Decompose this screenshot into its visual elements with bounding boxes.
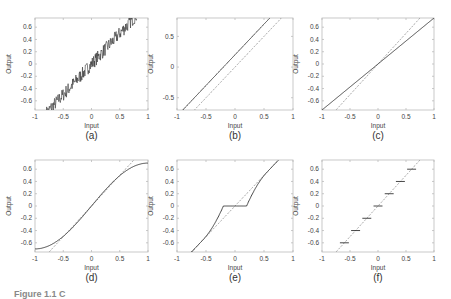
y-tick-label: -0.6 bbox=[21, 239, 33, 246]
y-tick-label: 0 bbox=[315, 202, 319, 209]
y-axis-label: Output bbox=[292, 196, 300, 216]
y-tick-label: -0.4 bbox=[308, 85, 320, 92]
y-tick-label: 0.2 bbox=[23, 48, 32, 55]
y-tick-label: 0.6 bbox=[310, 23, 319, 30]
y-tick-label: -0.4 bbox=[308, 227, 320, 234]
x-tick-label: 0.5 bbox=[401, 255, 410, 262]
y-tick-label: -0.4 bbox=[21, 227, 33, 234]
y-tick-label: -0.4 bbox=[163, 227, 175, 234]
y-tick-label: -0.6 bbox=[163, 239, 175, 246]
y-axis-label: Output bbox=[147, 196, 155, 216]
x-tick-label: 1 bbox=[146, 113, 150, 120]
y-tick-label: 0.2 bbox=[165, 190, 174, 197]
chart-panel-d: -1-0.500.51-0.6-0.4-0.200.20.40.6InputOu… bbox=[5, 145, 150, 283]
y-tick-label: 0 bbox=[315, 60, 319, 67]
panel-label: (d) bbox=[85, 272, 97, 283]
y-tick-label: -0.6 bbox=[308, 97, 320, 104]
y-tick-label: 0.6 bbox=[23, 165, 32, 172]
y-tick-label: 0.6 bbox=[310, 165, 319, 172]
y-tick-label: 0.4 bbox=[165, 178, 174, 185]
x-tick-label: 1 bbox=[146, 255, 150, 262]
y-tick-label: -0.4 bbox=[21, 85, 33, 92]
x-tick-label: 0 bbox=[90, 113, 94, 120]
y-axis-label: Output bbox=[147, 54, 155, 74]
chart-panel-a: -1-0.500.51-0.6-0.4-0.200.20.40.6InputOu… bbox=[5, 10, 150, 141]
x-tick-label: 0 bbox=[376, 113, 380, 120]
x-tick-label: 0 bbox=[376, 255, 380, 262]
x-tick-label: -0.5 bbox=[200, 113, 212, 120]
y-tick-label: 0.4 bbox=[23, 178, 32, 185]
x-tick-label: 0.5 bbox=[115, 113, 124, 120]
x-tick-label: 0 bbox=[90, 255, 94, 262]
y-tick-label: 0.6 bbox=[23, 23, 32, 30]
y-tick-label: 0.4 bbox=[310, 178, 319, 185]
x-tick-label: -1 bbox=[174, 255, 180, 262]
x-tick-label: -1 bbox=[32, 113, 38, 120]
y-tick-label: 0 bbox=[170, 63, 174, 70]
y-tick-label: 0.2 bbox=[23, 190, 32, 197]
panel-label: (a) bbox=[85, 130, 97, 141]
x-axis-label: Input bbox=[84, 264, 99, 272]
x-tick-label: -0.5 bbox=[344, 113, 356, 120]
x-axis-label: Input bbox=[371, 122, 386, 130]
x-tick-label: 0 bbox=[233, 113, 237, 120]
x-axis-label: Input bbox=[228, 264, 243, 272]
x-tick-label: -1 bbox=[319, 113, 325, 120]
x-tick-label: 0.5 bbox=[259, 113, 268, 120]
x-tick-label: 0 bbox=[233, 255, 237, 262]
figure-caption: Figure 1.1 C bbox=[14, 289, 66, 299]
y-tick-label: -0.2 bbox=[21, 214, 33, 221]
y-tick-label: 0.5 bbox=[165, 33, 174, 40]
y-tick-label: -0.5 bbox=[163, 94, 175, 101]
x-tick-label: -1 bbox=[32, 255, 38, 262]
y-tick-label: -0.2 bbox=[308, 214, 320, 221]
x-tick-label: 0.5 bbox=[401, 113, 410, 120]
y-axis-label: Output bbox=[5, 196, 13, 216]
x-tick-label: 0.5 bbox=[115, 255, 124, 262]
x-tick-label: 1 bbox=[291, 255, 295, 262]
chart-panel-c: -1-0.500.51-0.6-0.4-0.200.20.40.6InputOu… bbox=[292, 3, 436, 141]
x-tick-label: -0.5 bbox=[58, 113, 70, 120]
x-axis-label: Input bbox=[371, 264, 386, 272]
y-tick-label: -0.2 bbox=[308, 72, 320, 79]
plot-frame bbox=[177, 18, 293, 110]
panel-label: (c) bbox=[372, 130, 384, 141]
panel-label: (f) bbox=[373, 272, 382, 283]
chart-panel-e: -1-0.500.51-0.6-0.4-0.200.20.40.6InputOu… bbox=[147, 145, 295, 283]
y-tick-label: 0.4 bbox=[23, 36, 32, 43]
y-tick-label: -0.6 bbox=[308, 239, 320, 246]
y-tick-label: 0.6 bbox=[165, 165, 174, 172]
x-tick-label: -1 bbox=[319, 255, 325, 262]
y-tick-label: 0.2 bbox=[310, 190, 319, 197]
y-tick-label: 0 bbox=[28, 202, 32, 209]
y-tick-label: 0.2 bbox=[310, 48, 319, 55]
x-tick-label: 1 bbox=[291, 113, 295, 120]
x-tick-label: -0.5 bbox=[58, 255, 70, 262]
x-axis-label: Input bbox=[84, 122, 99, 130]
y-tick-label: -0.6 bbox=[21, 97, 33, 104]
chart-panel-b: -1-0.500.51-0.500.5InputOutput(b) bbox=[147, 0, 295, 141]
y-tick-label: 0 bbox=[170, 202, 174, 209]
y-tick-label: -0.2 bbox=[21, 72, 33, 79]
y-tick-label: 0 bbox=[28, 60, 32, 67]
chart-panel-f: -1-0.500.51-0.6-0.4-0.200.20.40.6InputOu… bbox=[292, 145, 436, 283]
y-axis-label: Output bbox=[5, 54, 13, 74]
y-tick-label: -0.2 bbox=[163, 214, 175, 221]
panel-label: (e) bbox=[229, 272, 241, 283]
x-tick-label: -1 bbox=[174, 113, 180, 120]
x-tick-label: -0.5 bbox=[200, 255, 212, 262]
x-tick-label: 1 bbox=[432, 255, 436, 262]
y-tick-label: 0.4 bbox=[310, 36, 319, 43]
panel-label: (b) bbox=[229, 130, 241, 141]
x-tick-label: -0.5 bbox=[344, 255, 356, 262]
y-axis-label: Output bbox=[292, 54, 300, 74]
x-tick-label: 1 bbox=[432, 113, 436, 120]
x-tick-label: 0.5 bbox=[259, 255, 268, 262]
x-axis-label: Input bbox=[228, 122, 243, 130]
figure-canvas: -1-0.500.51-0.6-0.4-0.200.20.40.6InputOu… bbox=[0, 0, 451, 299]
